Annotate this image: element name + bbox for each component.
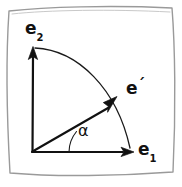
axis-e2-shaft (33, 57, 34, 152)
angle-arc-alpha (69, 132, 77, 153)
label-basis-vector-e1: e1 (138, 141, 157, 161)
label-angle-alpha: α (78, 123, 89, 139)
label-rotated-vector-e-prime: e´ (126, 80, 145, 97)
label-eprime-base: e (126, 78, 138, 98)
label-basis-vector-e2: e2 (25, 20, 44, 40)
label-e1-subscript: 1 (150, 153, 157, 164)
label-eprime-prime: ´ (138, 76, 146, 94)
frame-inner-shade (12, 10, 170, 14)
vector-diagram-figure: e2 e1 e´ α (0, 0, 182, 187)
label-e2-base: e (25, 18, 37, 38)
label-e1-base: e (138, 139, 150, 159)
label-e2-subscript: 2 (37, 32, 44, 43)
